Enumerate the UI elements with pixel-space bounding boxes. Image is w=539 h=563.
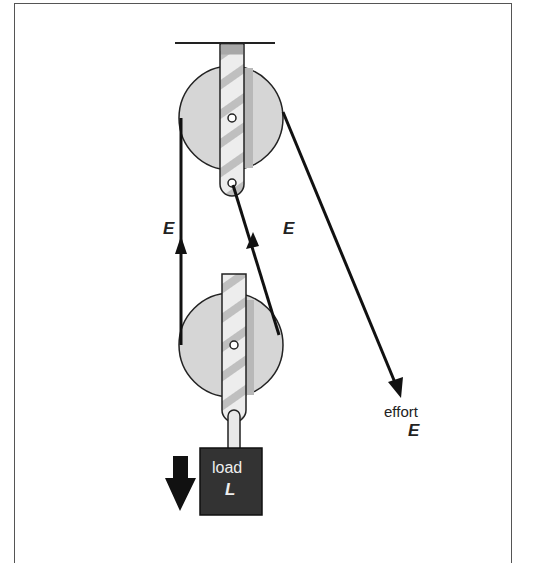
upper-pulley-strap bbox=[220, 44, 244, 196]
effort-rope-segment bbox=[283, 112, 396, 385]
lower-pulley-strap bbox=[222, 274, 246, 449]
axle-icon bbox=[230, 341, 238, 349]
middle-rope-label: E bbox=[283, 219, 294, 239]
load-symbol: L bbox=[225, 480, 235, 500]
effort-symbol: E bbox=[408, 421, 419, 441]
load-label: load bbox=[212, 459, 242, 477]
axle-icon bbox=[228, 114, 236, 122]
left-rope-label: E bbox=[163, 219, 174, 239]
down-arrow-icon bbox=[165, 456, 196, 511]
effort-label: effort bbox=[384, 403, 418, 420]
load-hook bbox=[228, 410, 240, 449]
effort-arrow-icon bbox=[388, 377, 403, 398]
up-arrow-icon bbox=[175, 236, 187, 254]
